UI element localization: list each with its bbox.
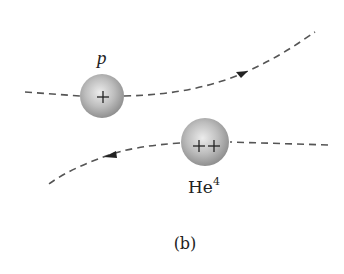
scattering-diagram: p He4 (b): [0, 0, 344, 274]
helium-label-base: He: [188, 177, 213, 197]
arrow-left-icon: [104, 151, 117, 158]
helium-path-curve: [49, 143, 180, 184]
figure-caption: (b): [174, 234, 197, 253]
proton-label: p: [95, 47, 107, 68]
proton-trajectory: [25, 32, 315, 96]
proton-path-line: [25, 92, 80, 96]
helium-particle: He4: [181, 118, 229, 197]
helium-path-line: [230, 142, 328, 145]
proton-particle: p: [80, 47, 124, 118]
helium-label: He4: [188, 175, 220, 197]
helium-label-superscript: 4: [213, 175, 220, 188]
helium-sphere: [181, 118, 229, 166]
proton-sphere: [80, 74, 124, 118]
arrow-right-icon: [236, 71, 248, 78]
proton-path-curve: [124, 32, 315, 96]
